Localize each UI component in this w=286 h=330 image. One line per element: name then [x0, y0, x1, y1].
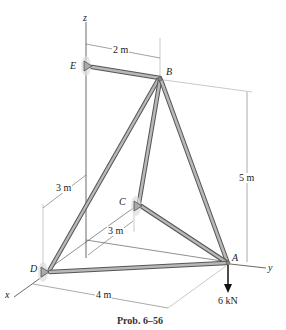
dim-height: 5 m — [238, 173, 255, 183]
joint-label-C: C — [119, 197, 126, 207]
joint-label-D: D — [30, 264, 37, 274]
dim-DA: 4 m — [95, 290, 112, 300]
y-axis-label: y — [268, 263, 272, 273]
support-D — [38, 262, 49, 282]
z-axis-label: z — [83, 13, 87, 23]
dim-EB: 2 m — [112, 45, 129, 55]
dim-D-offset: 3 m — [55, 183, 72, 193]
space-truss-diagram — [0, 0, 286, 330]
figure-caption: Prob. 6–56 — [117, 316, 163, 326]
x-axis-label: x — [5, 290, 9, 300]
joint-B — [158, 77, 162, 81]
dim-C-offset: 3 m — [107, 226, 124, 236]
joint-label-A: A — [232, 253, 238, 263]
support-E — [81, 56, 92, 76]
truss-members — [49, 67, 227, 272]
joint-A — [226, 261, 230, 265]
joint-label-B: B — [166, 67, 172, 77]
y-axis — [230, 264, 266, 268]
load-label: 6 kN — [218, 296, 238, 306]
joint-label-E: E — [70, 61, 76, 71]
